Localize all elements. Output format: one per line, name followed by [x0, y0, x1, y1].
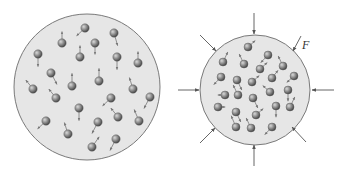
molecule-sphere-icon [268, 74, 276, 82]
molecule-sphere-icon [112, 135, 120, 143]
molecule-sphere-icon [94, 118, 102, 126]
molecule-sphere-icon [113, 53, 121, 61]
molecule-sphere-icon [286, 103, 294, 111]
molecule-sphere-icon [95, 77, 103, 85]
uncompressed-gas-container [14, 14, 160, 160]
molecule-sphere-icon [247, 124, 255, 132]
molecule-sphere-icon [240, 60, 248, 68]
molecule-sphere-icon [272, 102, 280, 110]
molecule-sphere-icon [52, 94, 60, 102]
molecule-sphere-icon [256, 65, 264, 73]
molecule-sphere-icon [134, 59, 142, 67]
force-label: F [302, 38, 309, 53]
molecule-sphere-icon [135, 117, 143, 125]
molecule-sphere-icon [244, 43, 252, 51]
molecule-sphere-icon [268, 123, 276, 131]
molecule-sphere-icon [64, 130, 72, 138]
molecule-sphere-icon [248, 78, 256, 86]
molecule-sphere-icon [219, 58, 227, 66]
molecule-sphere-icon [264, 51, 272, 59]
molecule-sphere-icon [42, 117, 50, 125]
molecule-sphere-icon [146, 93, 154, 101]
molecule-sphere-icon [249, 94, 257, 102]
molecule-sphere-icon [110, 29, 118, 37]
molecule-sphere-icon [75, 104, 83, 112]
molecule-sphere-icon [107, 94, 115, 102]
molecule-sphere-icon [47, 69, 55, 77]
molecule-sphere-icon [290, 72, 298, 80]
molecule-sphere-icon [232, 123, 240, 131]
molecule-sphere-icon [88, 143, 96, 151]
force-arrow-icon [200, 35, 216, 51]
molecule-sphere-icon [76, 53, 84, 61]
molecule-sphere-icon [284, 86, 292, 94]
force-arrow-icon [293, 36, 301, 51]
molecule-sphere-icon [91, 39, 99, 47]
force-arrow-icon [292, 127, 306, 142]
molecule-sphere-icon [214, 103, 222, 111]
molecule-sphere-icon [29, 85, 37, 93]
molecule-sphere-icon [266, 88, 274, 96]
molecule-sphere-icon [252, 111, 260, 119]
molecule-sphere-icon [81, 24, 89, 32]
molecule-sphere-icon [114, 113, 122, 121]
molecule-sphere-icon [58, 39, 66, 47]
molecule-sphere-icon [233, 76, 241, 84]
molecule-sphere-icon [221, 91, 229, 99]
molecule-sphere-icon [34, 50, 42, 58]
molecule-sphere-icon [217, 73, 225, 81]
molecule-sphere-icon [129, 85, 137, 93]
gas-compression-diagram [0, 0, 357, 178]
force-arrow-icon [200, 128, 215, 143]
molecule-sphere-icon [279, 62, 287, 70]
molecule-sphere-icon [232, 108, 240, 116]
molecule-sphere-icon [234, 91, 242, 99]
molecule-sphere-icon [68, 82, 76, 90]
